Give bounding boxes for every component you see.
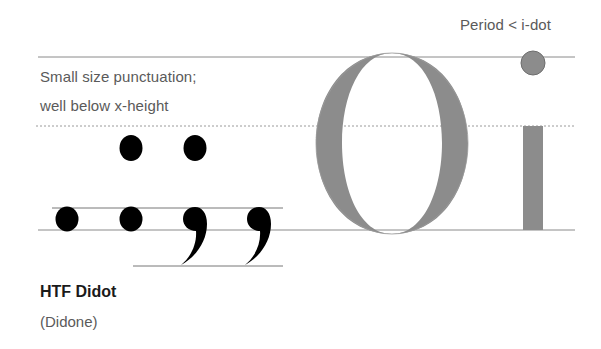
glyph-O	[316, 53, 468, 234]
i-stem	[523, 126, 543, 230]
period-dot-1	[56, 207, 79, 232]
typeface-name: HTF Didot	[40, 283, 116, 301]
colon-dot-upper-1	[120, 135, 143, 161]
period-idot-annotation: Period < i-dot	[460, 16, 551, 33]
comma-1	[181, 207, 207, 265]
small-punct-annotation-line2: well below x-height	[40, 97, 169, 114]
small-punct-annotation-line1: Small size punctuation;	[40, 68, 197, 85]
i-dot	[521, 51, 545, 75]
colon-dot-upper-2	[184, 135, 207, 161]
glyph-i	[521, 51, 545, 230]
period-dot-2	[120, 207, 143, 232]
comma-2	[245, 207, 271, 265]
typeface-classification: (Didone)	[40, 313, 98, 330]
